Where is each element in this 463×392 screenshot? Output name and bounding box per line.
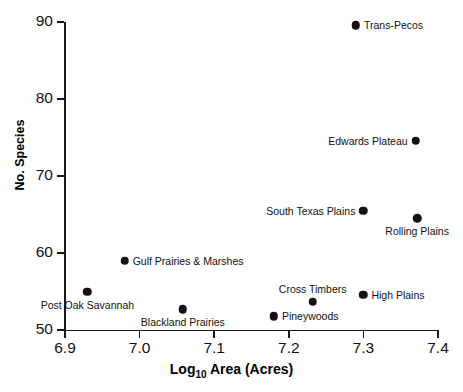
x-tick-mark [64, 331, 66, 338]
x-tick-mark [437, 331, 439, 338]
plot-area: 5060708090 6.97.07.17.27.37.4 Trans-Peco… [0, 0, 463, 392]
scatter-plot-figure: 5060708090 6.97.07.17.27.37.4 Trans-Peco… [0, 0, 463, 392]
x-axis-line [64, 330, 439, 332]
data-point-marker [411, 136, 420, 145]
x-tick-mark [288, 331, 290, 338]
data-point-marker [270, 312, 279, 321]
x-tick-mark [363, 331, 365, 338]
y-tick-label: 60 [20, 243, 53, 261]
data-point-marker [83, 287, 92, 296]
data-point-marker [359, 290, 368, 299]
data-point-label: Post Oak Savannah [41, 300, 134, 311]
data-point-label: Gulf Prairies & Marshes [133, 255, 244, 266]
x-tick-label: 7.2 [278, 339, 300, 357]
y-tick-mark [57, 98, 64, 100]
data-point-label: South Texas Plains [266, 205, 355, 216]
data-point-label: Rolling Plains [385, 226, 449, 237]
x-tick-label: 6.9 [54, 339, 76, 357]
data-point-marker [352, 21, 361, 30]
y-tick-mark [57, 175, 64, 177]
y-axis-line [64, 22, 66, 331]
x-axis-title-subscript: 10 [195, 369, 206, 380]
x-tick-mark [139, 331, 141, 338]
data-point-marker [120, 256, 129, 265]
y-tick-label: 90 [20, 12, 53, 30]
x-axis-title: Log10 Area (Acres) [0, 361, 463, 380]
x-tick-label: 7.1 [203, 339, 225, 357]
data-point-marker [179, 305, 188, 314]
y-tick-mark [57, 329, 64, 331]
y-tick-mark [57, 252, 64, 254]
x-tick-label: 7.0 [129, 339, 151, 357]
data-point-label: Trans-Pecos [364, 20, 423, 31]
data-point-marker [359, 206, 368, 215]
data-point-marker [413, 214, 422, 223]
data-point-label: Blackland Prairies [141, 317, 225, 328]
y-tick-label: 50 [20, 320, 53, 338]
x-tick-label: 7.3 [353, 339, 375, 357]
y-tick-mark [57, 21, 64, 23]
data-point-label: Edwards Plateau [328, 135, 407, 146]
y-axis-title: No. Species [13, 100, 27, 210]
data-point-label: High Plains [371, 289, 424, 300]
data-point-label: Pineywoods [282, 311, 339, 322]
x-tick-label: 7.4 [427, 339, 449, 357]
data-point-label: Cross Timbers [279, 283, 347, 294]
data-point-marker [308, 297, 317, 306]
x-axis-title-rest: Area (Acres) [207, 361, 294, 377]
x-tick-mark [213, 331, 215, 338]
x-axis-title-base: Log [170, 361, 196, 377]
